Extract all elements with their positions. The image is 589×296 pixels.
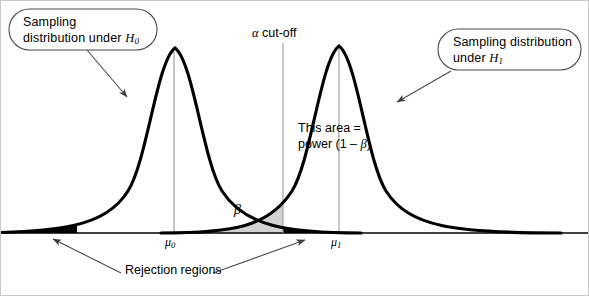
mu0-subscript: 0: [171, 240, 175, 250]
power-line1: This area =: [298, 120, 371, 136]
callout-h1-symbol: H: [489, 51, 498, 65]
callout-arrow-h1: [397, 71, 451, 102]
mu1-subscript: 1: [337, 240, 341, 250]
power-annotation: This area = power (1 – β): [298, 120, 371, 152]
callout-h0-line1: Sampling: [23, 14, 139, 30]
power-line2: power (1 – β): [298, 136, 371, 152]
callout-h1-line2-prefix: under: [453, 51, 489, 65]
callout-label-h1: Sampling distribution under H1: [453, 34, 572, 67]
callout-h1-subscript: 1: [499, 56, 504, 66]
alpha-cutoff-text: cut-off: [259, 26, 297, 40]
alpha-cutoff-label: α cut-off: [252, 25, 297, 41]
beta-region-label: β: [234, 201, 241, 219]
mu0-axis-label: μ0: [165, 235, 175, 251]
callout-h1-line2: under H1: [453, 50, 572, 67]
callout-h1-line1: Sampling distribution: [453, 34, 572, 50]
rejection-arrow-left: [53, 239, 121, 273]
rejection-region-left-fill: [1, 48, 175, 233]
callout-h0-subscript: 0: [134, 36, 139, 46]
mu1-axis-label: μ1: [331, 235, 341, 251]
callout-h0-line2-prefix: distribution under: [23, 31, 125, 45]
power-line2-suffix: ): [367, 137, 371, 151]
callout-h0-line2: distribution under H0: [23, 30, 139, 47]
rejection-arrow-right: [213, 240, 305, 273]
power-diagram-figure: Sampling distribution under H0 Sampling …: [0, 0, 589, 296]
callout-arrow-h0: [87, 50, 127, 97]
power-line2-prefix: power (1 –: [298, 137, 361, 151]
callout-label-h0: Sampling distribution under H0: [23, 14, 139, 47]
rejection-regions-label: Rejection regions: [125, 262, 222, 278]
